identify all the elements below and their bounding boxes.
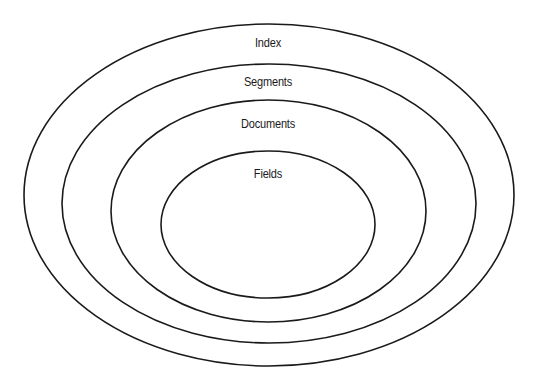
- nested-ellipses-diagram: [0, 0, 537, 386]
- fields-label: Fields: [252, 167, 284, 181]
- documents-ellipse: [111, 100, 426, 322]
- segments-label: Segments: [241, 75, 296, 89]
- index-label: Index: [253, 36, 283, 50]
- documents-label: Documents: [237, 117, 298, 131]
- segments-ellipse: [62, 64, 476, 343]
